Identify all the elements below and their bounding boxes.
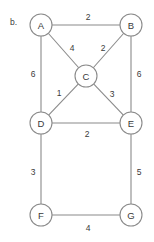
graph-node-b: B bbox=[120, 14, 142, 36]
edge-weight-a-c: 4 bbox=[70, 43, 75, 53]
nodes-layer: ABCDEFG bbox=[30, 14, 142, 226]
graph-node-c: C bbox=[75, 65, 97, 87]
edge-weight-b-e: 6 bbox=[137, 69, 142, 79]
graph-node-d: D bbox=[30, 112, 52, 134]
node-label-d: D bbox=[38, 118, 45, 129]
node-label-b: B bbox=[128, 20, 134, 31]
graph-edge-c-d bbox=[49, 84, 79, 115]
edges-layer bbox=[41, 25, 131, 215]
edge-weight-d-e: 2 bbox=[85, 129, 90, 139]
edge-weight-a-b: 2 bbox=[86, 12, 91, 22]
weighted-graph-figure: b. ABCDEFG 24266132354 bbox=[0, 0, 154, 242]
node-label-e: E bbox=[128, 118, 134, 129]
graph-node-g: G bbox=[120, 204, 142, 226]
node-label-g: G bbox=[127, 210, 134, 221]
graph-node-f: F bbox=[30, 204, 52, 226]
edge-weight-d-f: 3 bbox=[31, 167, 36, 177]
graph-edge-b-c bbox=[93, 33, 123, 68]
graph-edge-c-e bbox=[94, 84, 124, 115]
graph-node-e: E bbox=[120, 112, 142, 134]
edge-weight-f-g: 4 bbox=[86, 223, 91, 233]
edge-weight-a-d: 6 bbox=[31, 69, 36, 79]
node-label-a: A bbox=[38, 20, 45, 31]
edge-weight-e-g: 5 bbox=[137, 167, 142, 177]
edge-weight-c-d: 1 bbox=[57, 88, 62, 98]
node-label-c: C bbox=[83, 71, 90, 82]
graph-node-a: A bbox=[30, 14, 52, 36]
edge-weight-b-c: 2 bbox=[101, 43, 106, 53]
node-label-f: F bbox=[38, 210, 44, 221]
edge-weight-c-e: 3 bbox=[110, 89, 115, 99]
graph-canvas: ABCDEFG 24266132354 bbox=[0, 0, 154, 242]
